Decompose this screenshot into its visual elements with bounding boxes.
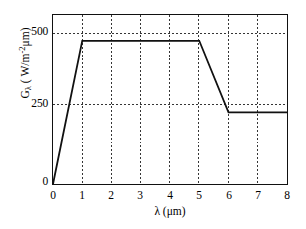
- x-tick-label-4: 4: [162, 190, 178, 202]
- y-axis-title-units-pre: ( W/m: [19, 54, 31, 87]
- x-tick-label-7: 7: [250, 190, 266, 202]
- x-tick-label-3: 3: [132, 190, 148, 202]
- y-axis-title-subscript: λ: [23, 86, 33, 90]
- y-axis-title-symbol: G: [19, 90, 31, 98]
- y-axis-title: Gλ ( W/m-2μm): [19, 27, 31, 98]
- y-axis-title-container: Gλ ( W/m-2μm): [14, 0, 30, 133]
- data-series-layer: [53, 15, 287, 184]
- y-axis-title-units-post: μm): [19, 27, 31, 46]
- y-tick-label-250: 250: [31, 98, 48, 110]
- x-axis-title: λ (μm): [52, 205, 288, 218]
- y-axis-title-units-exponent: -2: [17, 46, 27, 53]
- chart-figure: 500 250 0 Gλ ( W/m-2μm): [0, 0, 306, 229]
- x-axis-tick-labels: 0 1 2 3 4 5 6 7 8: [52, 190, 288, 206]
- x-tick-label-5: 5: [191, 190, 207, 202]
- x-tick-label-0: 0: [45, 190, 61, 202]
- x-tick-label-8: 8: [279, 190, 295, 202]
- plot-area: [52, 14, 288, 185]
- data-series-line: [53, 41, 287, 184]
- x-tick-label-6: 6: [221, 190, 237, 202]
- x-tick-label-1: 1: [74, 190, 90, 202]
- y-tick-label-500: 500: [31, 26, 48, 38]
- x-tick-label-2: 2: [103, 190, 119, 202]
- y-tick-label-0: 0: [42, 176, 48, 188]
